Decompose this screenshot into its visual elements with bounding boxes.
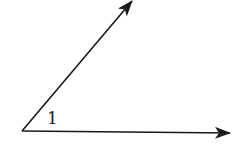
horizontal-ray	[22, 131, 230, 133]
angle-diagram: 1	[0, 0, 243, 154]
angle-label: 1	[47, 108, 58, 128]
upper-ray	[22, 1, 132, 131]
